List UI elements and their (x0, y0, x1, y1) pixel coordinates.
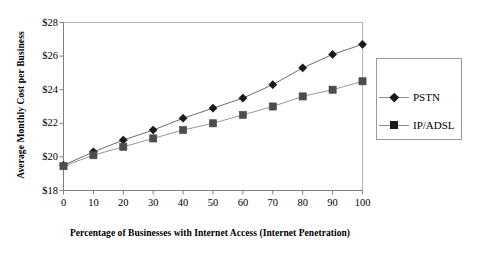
legend-marker-diamond-icon (377, 90, 411, 104)
legend-item-pstn: PSTN (377, 87, 461, 107)
legend-item-ipadsl: IP/ADSL (377, 115, 461, 135)
chart-figure: Average Monthly Cost per Business $18$20… (0, 0, 481, 255)
legend-label: IP/ADSL (411, 119, 455, 131)
legend-marker-square-icon (377, 118, 411, 132)
legend-label: PSTN (411, 91, 440, 103)
x-axis-title: Percentage of Businesses with Internet A… (40, 228, 380, 238)
chart-legend: PSTN IP/ADSL (376, 58, 462, 140)
